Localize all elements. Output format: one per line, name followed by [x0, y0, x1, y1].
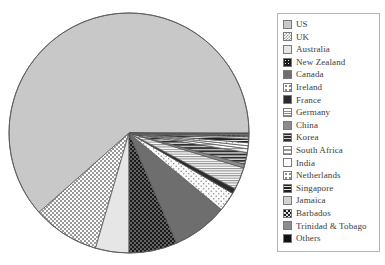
legend-item[interactable]: Others: [283, 232, 376, 245]
legend-item[interactable]: Trinidad & Tobago: [283, 220, 376, 233]
legend-item[interactable]: US: [283, 18, 376, 31]
legend-swatch: [283, 221, 292, 230]
legend-item[interactable]: Germany: [283, 106, 376, 119]
pie-chart: [0, 0, 268, 265]
legend-swatch: [283, 133, 292, 142]
legend-item-label: Jamaica: [296, 194, 326, 207]
legend-swatch: [283, 108, 292, 117]
legend-item[interactable]: Netherlands: [283, 169, 376, 182]
legend-item-label: China: [296, 119, 318, 132]
legend-swatch: [283, 209, 292, 218]
pie-slice-group: [9, 13, 249, 253]
legend-item-label: Australia: [296, 43, 330, 56]
legend-item-label: US: [296, 18, 308, 31]
legend-swatch: [283, 45, 292, 54]
legend-item-label: Barbados: [296, 207, 331, 220]
legend-swatch: [283, 70, 292, 79]
legend-item-list: USUKAustraliaNew ZealandCanadaIrelandFra…: [283, 18, 376, 245]
legend: USUKAustraliaNew ZealandCanadaIrelandFra…: [277, 13, 380, 252]
legend-swatch: [283, 196, 292, 205]
legend-item-label: Trinidad & Tobago: [296, 220, 367, 233]
legend-swatch: [283, 58, 292, 67]
legend-item-label: UK: [296, 31, 309, 44]
legend-item[interactable]: India: [283, 157, 376, 170]
legend-swatch: [283, 234, 292, 243]
legend-item[interactable]: UK: [283, 31, 376, 44]
legend-item[interactable]: Ireland: [283, 81, 376, 94]
legend-item[interactable]: China: [283, 119, 376, 132]
legend-item[interactable]: New Zealand: [283, 56, 376, 69]
legend-item-label: India: [296, 157, 315, 170]
legend-swatch: [283, 171, 292, 180]
legend-item-label: South Africa: [296, 144, 343, 157]
legend-swatch: [283, 158, 292, 167]
legend-item[interactable]: Singapore: [283, 182, 376, 195]
legend-item-label: Others: [296, 232, 321, 245]
legend-item-label: Ireland: [296, 81, 322, 94]
legend-item[interactable]: Korea: [283, 131, 376, 144]
legend-swatch: [283, 184, 292, 193]
legend-item[interactable]: South Africa: [283, 144, 376, 157]
legend-swatch: [283, 146, 292, 155]
legend-item-label: Singapore: [296, 182, 333, 195]
legend-swatch: [283, 32, 292, 41]
legend-item[interactable]: Australia: [283, 43, 376, 56]
legend-item[interactable]: France: [283, 94, 376, 107]
legend-swatch: [283, 83, 292, 92]
pie-chart-svg: [0, 0, 268, 265]
legend-item-label: New Zealand: [296, 56, 345, 69]
chart-page: USUKAustraliaNew ZealandCanadaIrelandFra…: [0, 0, 385, 265]
legend-item[interactable]: Jamaica: [283, 194, 376, 207]
legend-item-label: Korea: [296, 131, 319, 144]
legend-item-label: Canada: [296, 68, 324, 81]
legend-item-label: Germany: [296, 106, 330, 119]
legend-swatch: [283, 121, 292, 130]
legend-swatch: [283, 95, 292, 104]
legend-item[interactable]: Canada: [283, 68, 376, 81]
legend-swatch: [283, 20, 292, 29]
legend-item-label: France: [296, 94, 321, 107]
legend-item-label: Netherlands: [296, 169, 341, 182]
legend-item[interactable]: Barbados: [283, 207, 376, 220]
